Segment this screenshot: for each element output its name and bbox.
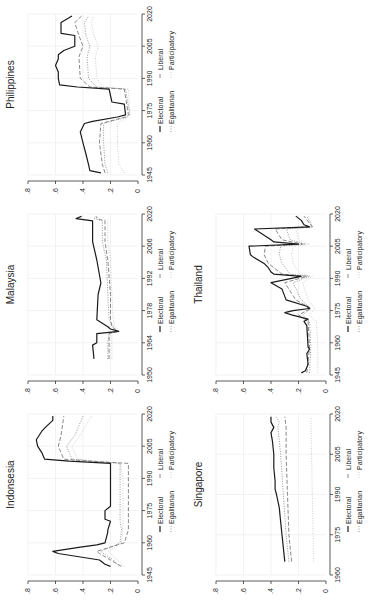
series-electoral <box>76 216 119 359</box>
svg-text:.8: .8 <box>24 188 31 194</box>
svg-text:.6: .6 <box>240 388 247 394</box>
svg-text:0: 0 <box>134 589 141 593</box>
svg-text:.2: .2 <box>295 588 302 594</box>
series-electoral <box>56 16 126 173</box>
svg-text:Egalitarian: Egalitarian <box>356 291 364 324</box>
series-egalitarian <box>94 216 117 359</box>
series-electoral <box>36 416 110 566</box>
svg-text:.4: .4 <box>79 388 86 394</box>
chart-philippines: .8.6.4.20194519601975199020052020Philipp… <box>0 0 188 200</box>
series-participatory <box>72 416 124 566</box>
svg-text:0: 0 <box>134 389 141 393</box>
svg-text:1945: 1945 <box>146 167 153 183</box>
value-axis: .8.6.4.20 <box>24 181 141 194</box>
panel-indonesia: .8.6.4.20194519601975199020052020Indonse… <box>0 400 188 600</box>
svg-text:2006: 2006 <box>146 238 153 254</box>
series-liberal <box>285 417 292 562</box>
svg-text:Electoral: Electoral <box>157 496 164 524</box>
grid <box>28 214 138 375</box>
svg-text:.4: .4 <box>79 588 86 594</box>
svg-text:1990: 1990 <box>334 487 341 503</box>
chart-thailand: .8.6.4.20194519601975199020052020Thailan… <box>188 200 376 400</box>
chart-indonesia: .8.6.4.20194519601975199020052020Indonse… <box>0 400 188 600</box>
svg-text:0: 0 <box>322 589 329 593</box>
svg-text:1964: 1964 <box>146 335 153 351</box>
chart-singapore: .8.6.4.2019601975199020052020SingaporeEl… <box>188 400 376 600</box>
value-axis: .8.6.4.20 <box>24 381 141 394</box>
legend: ElectoralLiberalEgalitarianParticipatory <box>157 431 176 532</box>
legend: ElectoralLiberalEgalitarianParticipatory <box>157 31 176 132</box>
svg-text:2020: 2020 <box>334 406 341 422</box>
legend: ElectoralLiberalEgalitarianParticipatory <box>345 231 364 332</box>
chart-title: Philippines <box>5 60 16 108</box>
svg-text:.2: .2 <box>295 388 302 394</box>
svg-text:Liberal: Liberal <box>345 249 352 270</box>
value-axis: .8.6.4.20 <box>212 381 329 394</box>
legend: ElectoralLiberalEgalitarianParticipatory <box>345 431 364 532</box>
svg-text:.6: .6 <box>52 388 59 394</box>
svg-text:2020: 2020 <box>146 406 153 422</box>
svg-text:Electoral: Electoral <box>157 96 164 124</box>
svg-text:2005: 2005 <box>334 238 341 254</box>
svg-text:1975: 1975 <box>146 103 153 119</box>
svg-text:Electoral: Electoral <box>345 296 352 324</box>
svg-text:1975: 1975 <box>334 303 341 319</box>
svg-text:1950: 1950 <box>146 367 153 383</box>
svg-text:1992: 1992 <box>146 271 153 287</box>
chart-title: Thailand <box>193 265 204 303</box>
series-egalitarian <box>84 16 129 173</box>
svg-text:.8: .8 <box>24 588 31 594</box>
svg-text:0: 0 <box>322 389 329 393</box>
svg-text:1945: 1945 <box>334 367 341 383</box>
svg-text:.4: .4 <box>79 188 86 194</box>
svg-text:Participatory: Participatory <box>356 231 364 270</box>
year-axis: 19601975199020052020 <box>330 406 341 583</box>
series-participatory <box>292 216 318 373</box>
svg-text:.6: .6 <box>240 588 247 594</box>
svg-text:1990: 1990 <box>334 271 341 287</box>
svg-text:1960: 1960 <box>334 335 341 351</box>
svg-text:.4: .4 <box>267 388 274 394</box>
svg-text:.2: .2 <box>107 188 114 194</box>
svg-text:.4: .4 <box>267 588 274 594</box>
svg-text:1990: 1990 <box>146 71 153 87</box>
svg-text:1960: 1960 <box>146 135 153 151</box>
grid <box>28 14 138 175</box>
series-participatory <box>311 417 314 562</box>
svg-text:.6: .6 <box>52 188 59 194</box>
value-axis: .8.6.4.20 <box>24 581 141 594</box>
svg-text:Liberal: Liberal <box>157 449 164 470</box>
svg-text:1975: 1975 <box>334 527 341 543</box>
grid <box>28 414 138 575</box>
svg-text:2005: 2005 <box>334 446 341 462</box>
svg-text:Liberal: Liberal <box>157 49 164 70</box>
grid <box>216 414 326 575</box>
svg-text:2020: 2020 <box>146 206 153 222</box>
svg-text:Egalitarian: Egalitarian <box>356 491 364 524</box>
svg-text:Electoral: Electoral <box>345 496 352 524</box>
svg-text:2020: 2020 <box>334 206 341 222</box>
series-participatory <box>104 216 119 359</box>
year-axis: 194519601975199020052020 <box>142 6 153 183</box>
svg-text:Participatory: Participatory <box>356 431 364 470</box>
svg-text:1975: 1975 <box>146 503 153 519</box>
svg-text:2005: 2005 <box>146 438 153 454</box>
svg-text:.2: .2 <box>107 588 114 594</box>
year-axis: 194519601975199020052020 <box>142 406 153 583</box>
value-axis: .8.6.4.20 <box>212 581 329 594</box>
legend: ElectoralLiberalEgalitarianParticipatory <box>157 231 176 332</box>
svg-text:.8: .8 <box>212 388 219 394</box>
svg-text:Participatory: Participatory <box>168 431 176 470</box>
panel-singapore: .8.6.4.2019601975199020052020SingaporeEl… <box>188 400 376 600</box>
panel-philippines: .8.6.4.20194519601975199020052020Philipp… <box>0 0 188 200</box>
panel-thailand: .8.6.4.20194519601975199020052020Thailan… <box>188 200 376 400</box>
svg-text:1960: 1960 <box>146 535 153 551</box>
series-liberal <box>58 416 128 566</box>
svg-text:1978: 1978 <box>146 303 153 319</box>
svg-text:.8: .8 <box>24 388 31 394</box>
grid <box>216 214 326 375</box>
chart-malaysia: .8.6.4.20195019641978199220062020Malaysi… <box>0 200 188 400</box>
svg-text:Egalitarian: Egalitarian <box>168 291 176 324</box>
series-egalitarian <box>67 416 122 566</box>
svg-text:Participatory: Participatory <box>168 231 176 270</box>
